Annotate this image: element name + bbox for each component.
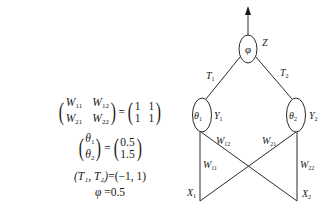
- label-y1: Y1: [214, 110, 223, 122]
- label-t1: T1: [206, 70, 215, 82]
- label-y2: Y2: [309, 110, 318, 122]
- arrow-head-icon: [245, 6, 251, 15]
- network-svg: φ Z θ1 Y1 θ2 Y2 T1 T2 W12 W21 W11 W22 X1…: [0, 0, 329, 213]
- label-w11: W11: [203, 159, 217, 171]
- label-x2: X2: [301, 188, 311, 200]
- label-z: Z: [262, 37, 268, 48]
- label-x1: X1: [186, 187, 196, 199]
- diagram-figure: ( W11 W12 W21 W22 ) = ( 1 1 1 1 ) ( θ1 θ…: [0, 0, 329, 213]
- label-w12: W12: [216, 135, 230, 147]
- label-w22: W22: [300, 159, 314, 171]
- node-phi-symbol: φ: [245, 43, 251, 55]
- label-w21: W21: [262, 135, 276, 147]
- label-t2: T2: [280, 67, 289, 79]
